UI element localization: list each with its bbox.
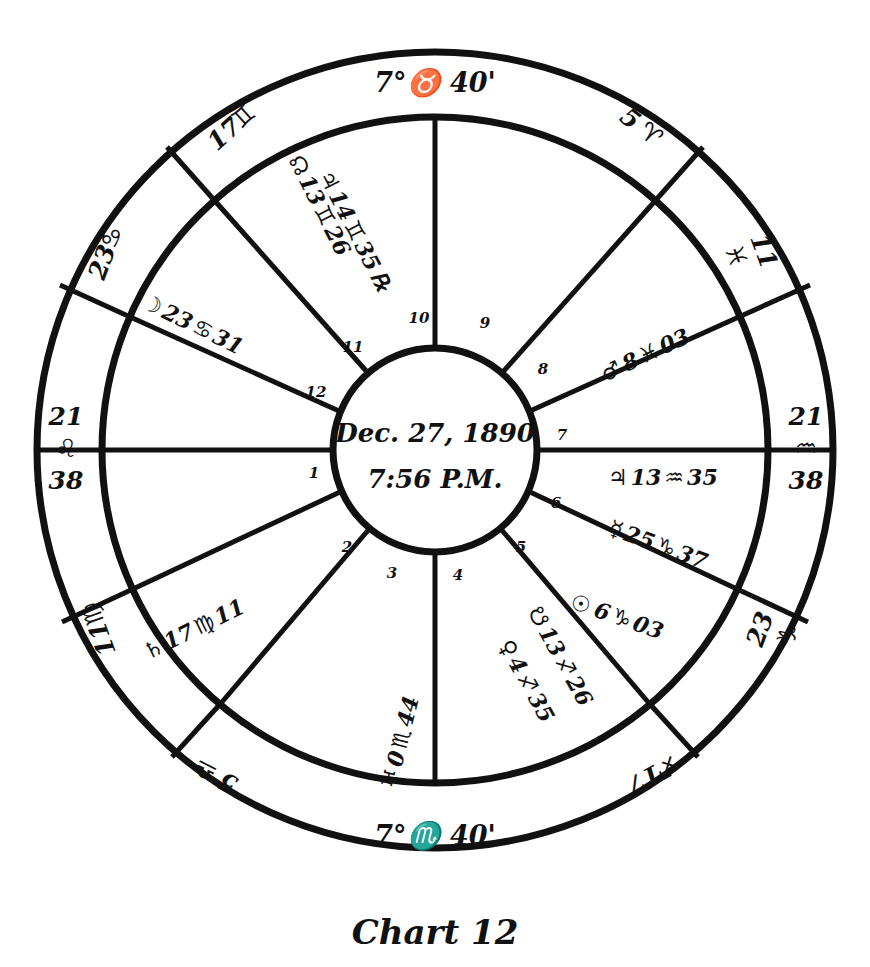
center-circle bbox=[333, 348, 537, 552]
house-number-6: 6 bbox=[551, 494, 562, 512]
planet-moon-row: ☽23♋31 bbox=[138, 288, 248, 359]
planet-sun-row: ☉6♑03 bbox=[567, 588, 667, 644]
house-number-7: 7 bbox=[557, 426, 568, 444]
outer-tick-8 bbox=[741, 285, 810, 316]
jupiter2-minutes: 35 bbox=[687, 464, 718, 490]
planet-mars-row: ♂8♓03 bbox=[596, 323, 693, 387]
planet-uranus-row: ♅0♏44 bbox=[376, 693, 424, 791]
house-number-11: 11 bbox=[343, 338, 364, 356]
cusp-6-sign-glyph: ♑ bbox=[771, 618, 806, 649]
jupiter2-sign-glyph: ♒ bbox=[664, 465, 684, 490]
jupiter2-degree: 13 bbox=[631, 464, 662, 490]
uranus-glyph: ♅ bbox=[377, 766, 406, 791]
center-birth-date: Dec. 27, 1890 bbox=[334, 418, 535, 448]
cusp-line-9 bbox=[502, 201, 655, 373]
planet-moon: ☽23♋31 bbox=[138, 288, 248, 359]
sun-minutes: 03 bbox=[630, 610, 667, 645]
jupiter-minutes: 35 bbox=[349, 236, 386, 275]
chart-page: 7°♉ 40' 7°♏ 40' 21 ♌ 38 21 ♒ 38 17 ♊ 23 … bbox=[0, 0, 870, 967]
cusp-label-12: 23 ♋ bbox=[82, 221, 129, 284]
cusp-8-sign-glyph: ♓ bbox=[719, 240, 754, 271]
desc-degree: 21 bbox=[788, 402, 824, 431]
uranus-sign-glyph: ♏ bbox=[387, 726, 416, 751]
house-number-3: 3 bbox=[387, 564, 397, 582]
house-number-10: 10 bbox=[409, 309, 430, 327]
asc-minutes: 38 bbox=[49, 466, 84, 495]
house-number-4: 4 bbox=[453, 566, 463, 584]
house-number-1: 1 bbox=[309, 464, 319, 482]
outer-tick-3 bbox=[172, 702, 222, 757]
planet-mars: ♂8♓03 bbox=[596, 323, 693, 387]
astrology-chart-wheel: 7°♉ 40' 7°♏ 40' 21 ♌ 38 21 ♒ 38 17 ♊ 23 … bbox=[0, 0, 870, 967]
chart-caption: Chart 12 bbox=[352, 912, 519, 952]
angle-ic: 7°♏ 40' bbox=[374, 820, 496, 851]
center-birth-time: 7:56 P.M. bbox=[367, 464, 502, 494]
cusp-label-2: 11 ♍ bbox=[75, 598, 121, 660]
outer-tick-12 bbox=[60, 285, 128, 316]
planet-uranus: ♅0♏44 bbox=[376, 693, 424, 791]
planet-jupiter-aquarius-row: ♃13♒35 bbox=[608, 464, 718, 490]
house-number-5: 5 bbox=[516, 538, 526, 556]
house-number-2: 2 bbox=[341, 538, 352, 556]
house-number-12: 12 bbox=[306, 383, 327, 401]
outer-tick-9 bbox=[655, 147, 703, 201]
planet-mercury-row: ☿25♑37 bbox=[605, 514, 712, 574]
cusp-label-11: 17 ♊ bbox=[202, 98, 262, 156]
outer-tick-5 bbox=[648, 702, 698, 757]
planet-mercury: ☿25♑37 bbox=[605, 514, 712, 574]
angle-mc: 7°♉ 40' bbox=[374, 67, 496, 98]
desc-minutes: 38 bbox=[789, 466, 824, 495]
cusp-line-2 bbox=[133, 492, 340, 589]
uranus-minutes: 44 bbox=[391, 693, 424, 729]
house-number-8: 8 bbox=[538, 360, 549, 378]
jupiter2-glyph: ♃ bbox=[608, 465, 628, 490]
asc-sign-glyph: ♌ bbox=[55, 434, 77, 463]
house-number-9: 9 bbox=[480, 314, 491, 332]
planet-sun: ☉6♑03 bbox=[567, 588, 667, 644]
cusp-label-8: 11 ♓ bbox=[718, 230, 783, 282]
cusp-label-9: 5 ♈ bbox=[614, 102, 668, 153]
desc-sign-glyph: ♒ bbox=[795, 434, 817, 463]
outer-tick-11 bbox=[167, 147, 215, 201]
planet-jupiter-aquarius: ♃13♒35 bbox=[608, 464, 718, 490]
mercury-minutes: 37 bbox=[674, 539, 712, 574]
asc-degree: 21 bbox=[48, 402, 84, 431]
saturn-minutes: 11 bbox=[210, 593, 249, 630]
